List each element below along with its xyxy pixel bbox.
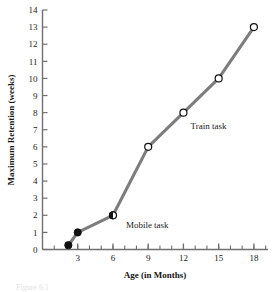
retention-line-chart: 01234567891011121314 369121518 Mobile ta… xyxy=(0,0,274,292)
x-tick-label: 12 xyxy=(179,253,188,263)
figure-container: 01234567891011121314 369121518 Mobile ta… xyxy=(0,0,274,292)
x-axis-tick-labels: 369121518 xyxy=(75,253,258,263)
y-tick-label: 4 xyxy=(33,176,38,186)
chart-axes xyxy=(43,10,269,250)
y-axis-ticks xyxy=(43,10,48,250)
y-tick-label: 5 xyxy=(33,159,38,169)
y-tick-label: 2 xyxy=(33,210,38,220)
y-tick-label: 1 xyxy=(33,228,38,238)
x-tick-label: 15 xyxy=(214,253,224,263)
y-axis-title: Maximum Retention (weeks) xyxy=(6,75,16,186)
data-point-marker xyxy=(145,143,152,150)
y-tick-label: 9 xyxy=(33,91,38,101)
x-axis-ticks xyxy=(78,244,254,250)
y-tick-label: 10 xyxy=(29,74,39,84)
data-point-marker xyxy=(215,75,222,82)
y-tick-label: 6 xyxy=(33,142,38,152)
y-tick-label: 8 xyxy=(33,108,38,118)
y-tick-label: 3 xyxy=(33,193,38,203)
x-tick-label: 18 xyxy=(249,253,259,263)
figure-caption-fragment: Figure 6.1 xyxy=(0,283,274,292)
y-tick-label: 11 xyxy=(29,57,38,67)
data-point-marker xyxy=(250,24,257,31)
data-line xyxy=(68,27,254,245)
y-tick-label: 13 xyxy=(29,22,39,32)
data-point-marker xyxy=(65,242,72,249)
y-tick-label: 14 xyxy=(29,5,39,15)
x-tick-label: 9 xyxy=(146,253,151,263)
y-tick-label: 7 xyxy=(33,125,38,135)
mobile-task-label: Mobile task xyxy=(126,220,169,230)
data-point-marker xyxy=(180,109,187,116)
x-axis-title: Age (in Months) xyxy=(124,270,187,280)
data-point-marker xyxy=(74,229,81,236)
y-tick-label: 12 xyxy=(29,39,38,49)
train-task-label: Train task xyxy=(190,121,226,131)
y-tick-label: 0 xyxy=(33,245,38,255)
y-axis-tick-labels: 01234567891011121314 xyxy=(29,5,39,255)
x-tick-label: 6 xyxy=(111,253,116,263)
x-tick-label: 3 xyxy=(75,253,80,263)
